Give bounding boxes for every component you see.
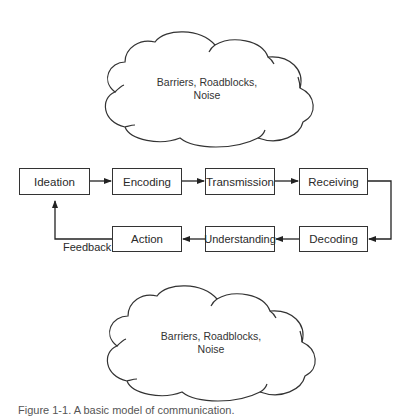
node-transmission: Transmission bbox=[205, 168, 275, 195]
node-action: Action bbox=[112, 226, 182, 252]
node-receiving: Receiving bbox=[299, 168, 368, 195]
bottom-cloud-line1: Barriers, Roadblocks, bbox=[131, 330, 291, 343]
top-cloud-label: Barriers, Roadblocks, Noise bbox=[127, 76, 287, 102]
node-understanding: Understanding bbox=[205, 226, 275, 252]
node-encoding: Encoding bbox=[112, 168, 182, 195]
top-cloud-line1: Barriers, Roadblocks, bbox=[127, 76, 287, 89]
node-ideation: Ideation bbox=[19, 168, 90, 195]
node-decoding: Decoding bbox=[299, 226, 368, 252]
top-cloud-line2: Noise bbox=[127, 89, 287, 102]
bottom-cloud-label: Barriers, Roadblocks, Noise bbox=[131, 330, 291, 356]
feedback-label: Feedback bbox=[63, 241, 111, 253]
figure-caption: Figure 1-1. A basic model of communicati… bbox=[18, 404, 234, 416]
bottom-cloud-line2: Noise bbox=[131, 343, 291, 356]
